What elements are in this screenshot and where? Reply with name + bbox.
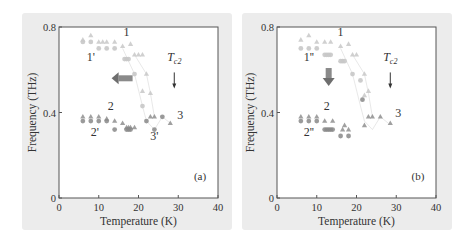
data-point-circle — [160, 114, 165, 119]
x-tick-label: 30 — [391, 202, 402, 213]
data-point-circle — [338, 134, 343, 139]
data-point-circle — [298, 46, 303, 51]
data-point-circle — [88, 40, 93, 45]
panel-label: (b) — [412, 170, 425, 183]
data-point-circle — [346, 134, 351, 139]
data-point-circle — [88, 119, 93, 124]
y-axis-label: Frequency (THz) — [244, 73, 257, 153]
data-point-circle — [358, 78, 363, 83]
data-point-circle — [112, 46, 117, 51]
shift-arrow-left-icon — [119, 75, 133, 81]
x-axis-label: Temperature (K) — [318, 215, 395, 228]
y-tick-label: 0.4 — [261, 108, 275, 119]
x-tick-label: 30 — [173, 202, 184, 213]
data-point-circle — [80, 40, 85, 45]
data-point-circle — [80, 119, 85, 124]
x-tick-label: 10 — [312, 202, 323, 213]
x-tick-label: 10 — [94, 202, 105, 213]
data-point-circle — [128, 127, 133, 132]
data-point-circle — [306, 119, 311, 124]
data-point-circle — [144, 119, 149, 124]
figure: 01020304000.40.8Temperature (K)Frequency… — [0, 0, 472, 240]
x-tick-label: 20 — [133, 202, 144, 213]
x-axis-label: Temperature (K) — [100, 215, 177, 228]
branch-label: 2 — [108, 99, 114, 113]
branch-label: 3 — [395, 106, 401, 120]
data-point-circle — [330, 127, 335, 132]
data-point-circle — [126, 57, 131, 62]
panel-b: 01020304000.40.8Temperature (K)Frequency… — [244, 22, 441, 228]
data-point-circle — [328, 52, 333, 57]
data-point-circle — [96, 119, 101, 124]
branch-label: 2 — [324, 99, 330, 113]
branch-label: 2'' — [304, 125, 314, 139]
data-point-circle — [104, 119, 109, 124]
shift-arrow-down-icon — [326, 68, 332, 78]
x-tick-label: 0 — [56, 202, 61, 213]
data-point-circle — [314, 46, 319, 51]
data-point-circle — [350, 72, 355, 77]
data-point-circle — [112, 127, 117, 132]
y-tick-label: 0.8 — [43, 22, 56, 33]
x-tick-label: 20 — [351, 202, 362, 213]
branch-label: 3' — [150, 129, 158, 143]
branch-label: 1 — [338, 25, 344, 39]
data-point-circle — [298, 119, 303, 124]
data-point-circle — [132, 72, 137, 77]
x-tick-label: 0 — [274, 202, 279, 213]
y-tick-label: 0 — [51, 193, 56, 204]
panel-label: (a) — [194, 170, 207, 183]
branch-label: 1'' — [304, 50, 314, 64]
data-point-circle — [360, 97, 365, 102]
data-point-circle — [104, 46, 109, 51]
data-point-circle — [314, 119, 319, 124]
x-tick-label: 40 — [431, 202, 442, 213]
branch-label: 3 — [177, 108, 183, 122]
data-point-circle — [140, 104, 145, 109]
x-tick-label: 40 — [213, 202, 224, 213]
data-point-circle — [96, 46, 101, 51]
y-tick-label: 0.8 — [261, 22, 274, 33]
data-point-circle — [342, 59, 347, 64]
y-axis-label: Frequency (THz) — [26, 73, 39, 153]
branch-label: 1 — [124, 25, 130, 39]
y-tick-label: 0 — [269, 193, 274, 204]
branch-label: 2' — [91, 125, 99, 139]
panel-a: 01020304000.40.8Temperature (K)Frequency… — [26, 22, 223, 228]
branch-label: 1' — [87, 50, 95, 64]
y-tick-label: 0.4 — [43, 108, 57, 119]
